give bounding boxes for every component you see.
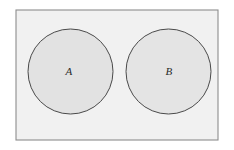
venn-diagram-figure: A B bbox=[0, 0, 234, 150]
set-label-b: B bbox=[166, 65, 173, 77]
venn-diagram-canvas: A B bbox=[0, 0, 234, 150]
set-label-a: A bbox=[65, 65, 73, 77]
